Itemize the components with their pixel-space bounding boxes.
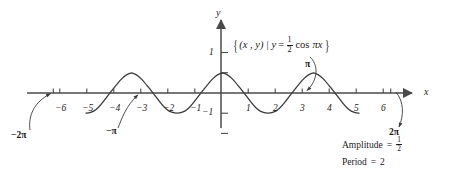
y-tick-label-neg1: −1 [202,108,213,118]
x-tick-label-2: 2 [273,104,278,114]
x-tick-label-neg1: −1 [190,104,201,114]
close-brace-glyph: } [324,38,330,53]
period-note: Period=2 [342,158,385,168]
x-tick-label-5: 5 [354,104,359,114]
x-tick-label-1: 1 [246,104,251,114]
equals-sign: = [276,39,286,50]
x-tick-label-neg4: −4 [109,104,120,114]
neg-two-pi-arrow [30,94,51,130]
y-tick-label-1: 1 [209,48,214,58]
fraction-denominator: 2 [287,46,293,55]
amplitude-denominator: 2 [396,145,401,153]
pos-two-pi-arrow [396,92,402,127]
amplitude-fraction: 12 [396,136,401,153]
x-tick-label-neg5: −5 [82,104,93,114]
annotation-neg-two-pi: −2π [11,131,26,141]
x-tick-label-3: 3 [300,104,305,114]
neg-pi-arrow [118,95,138,128]
period-equals: = [367,157,380,167]
open-brace-glyph: { [233,38,237,53]
period-label: Period [342,157,367,167]
cosine-graph-figure: −6 −5 −4 −3 −2 −1 1 2 3 4 5 6 1 −1 x y −… [0,0,460,178]
x-tick-label-6: 6 [381,104,386,114]
x-tick-label-4: 4 [327,104,332,114]
annotation-neg-pi: −π [106,127,117,137]
cos-argument: πx [309,39,322,50]
x-tick-label-neg2: −2 [163,104,174,114]
such-that-bar: | [263,39,271,50]
y-axis-label: y [216,8,220,18]
cos-operator: cos [293,39,309,50]
one-half-fraction: 12 [287,36,293,54]
x-tick-label-neg3: −3 [136,104,147,114]
annotation-pos-pi: π [305,60,310,70]
amplitude-label: Amplitude [342,140,383,150]
period-value: 2 [380,157,385,167]
amplitude-equals: = [383,140,396,150]
x-axis-label: x [424,87,428,97]
x-tick-label-neg6: −6 [55,104,66,114]
amplitude-note: Amplitude=12 [342,136,403,153]
set-builder-notation: {(x , y)|y=12cosπx} [232,36,332,54]
ordered-pair: (x , y) [239,39,263,50]
